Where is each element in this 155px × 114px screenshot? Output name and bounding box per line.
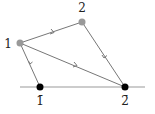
edge-g1-b2 xyxy=(20,43,125,87)
label-gray-2: 2 xyxy=(78,1,86,15)
arrow-icon xyxy=(50,29,54,34)
edge-g1-g2 xyxy=(20,22,82,43)
node-gray-2 xyxy=(79,19,86,26)
node-gray-1 xyxy=(17,40,24,47)
graph-diagram: 1 2 1̄ 2̄ xyxy=(0,0,155,114)
node-black-2 xyxy=(122,84,129,91)
edge-g2-b2 xyxy=(82,22,125,87)
node-black-1 xyxy=(37,84,44,91)
label-gray-1: 1 xyxy=(4,37,12,51)
arrow-icon xyxy=(73,62,77,67)
label-black-2: 2̄ xyxy=(121,94,129,108)
label-black-1: 1̄ xyxy=(36,94,44,108)
